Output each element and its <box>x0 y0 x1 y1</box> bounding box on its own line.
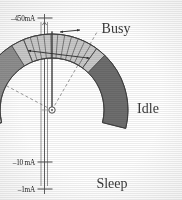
busy-range-arrow-line <box>60 30 80 32</box>
segment-label-busy: Busy <box>102 21 131 36</box>
segment-label-idle: Idle <box>137 101 159 116</box>
gauge-figure: –450mA–65 mA–10 mA–1mA BusyIdleSleep <box>0 0 182 200</box>
hatch-line <box>0 123 2 129</box>
axis-tick-label: –1mA <box>17 186 36 194</box>
segment-label-sleep: Sleep <box>96 176 127 191</box>
axis-tick-label: –450mA <box>10 15 36 23</box>
axis-tick-label: –10 mA <box>12 159 36 167</box>
needle-pivot-dot <box>51 109 53 111</box>
arc-segment-sleep[interactable] <box>88 55 128 128</box>
figure-canvas: –450mA–65 mA–10 mA–1mA BusyIdleSleep <box>0 0 182 200</box>
